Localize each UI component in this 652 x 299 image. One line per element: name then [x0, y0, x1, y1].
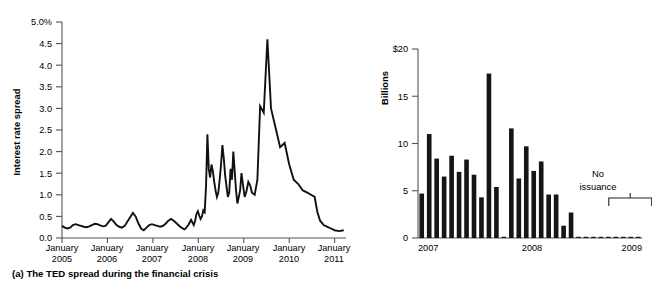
y-tick-label-a: 2.5: [39, 125, 52, 135]
bar: [502, 237, 507, 238]
no-issuance-line1: No: [592, 168, 604, 179]
panel-a-ted-spread: Interest rate spread 0.0: [0, 0, 352, 299]
ted-spread-chart: Interest rate spread 0.0: [0, 0, 352, 262]
bar: [434, 159, 439, 238]
x-tick-label-a-year: 2005: [52, 254, 72, 262]
bar: [554, 195, 559, 238]
y-axis-title-a: Interest rate spread: [11, 88, 22, 175]
bar: [516, 178, 521, 238]
y-tick-label-a: 2.0: [39, 147, 52, 157]
bar: [509, 128, 514, 238]
y-tick-label-a: 1.5: [39, 169, 52, 179]
x-tick-label-a-month: January: [318, 243, 351, 253]
y-ticks-a: [56, 22, 62, 238]
bar: [599, 237, 604, 238]
y-tick-label-b: 15: [398, 92, 408, 102]
x-tick-label-a-year: 2007: [142, 254, 162, 262]
x-tick-label-a-month: January: [46, 243, 79, 253]
bar: [584, 237, 589, 238]
bar: [546, 195, 551, 238]
bar: [576, 237, 581, 238]
x-tick-label-a-year: 2008: [188, 254, 208, 262]
no-issuance-annotation: No issuance: [579, 168, 651, 206]
y-tick-label-a: 3.5: [39, 82, 52, 92]
x-tick-label-b: 2009: [622, 243, 642, 253]
bar: [479, 197, 484, 238]
x-tick-label-a-year: 2011: [324, 254, 344, 262]
y-tick-label-a: 1.0: [39, 190, 52, 200]
bar: [561, 226, 566, 238]
bar: [621, 237, 626, 238]
bar: [472, 175, 477, 238]
bar: [457, 172, 462, 238]
x-tick-label-a-month: January: [227, 243, 260, 253]
bar: [636, 237, 641, 238]
y-tick-label-a: 0.5: [39, 212, 52, 222]
y-tick-labels-b: 0 5 10 15 $20: [393, 44, 408, 243]
bar: [539, 161, 544, 238]
y-tick-label-a: 3.0: [39, 104, 52, 114]
bar: [449, 156, 454, 238]
x-tick-label-a-month: January: [273, 243, 306, 253]
no-issuance-bracket: [609, 193, 652, 206]
y-ticks-b: [412, 49, 418, 238]
bar: [628, 237, 633, 238]
bar: [524, 146, 529, 238]
x-tick-label-a-year: 2006: [97, 254, 117, 262]
bar: [464, 160, 469, 238]
x-tick-label-a-month: January: [136, 243, 169, 253]
bar: [487, 74, 492, 238]
bar: [531, 171, 536, 238]
y-axis-title-b: Billions: [379, 71, 390, 105]
y-tick-label-b: 5: [403, 186, 408, 196]
x-tick-label-a-year: 2010: [279, 254, 299, 262]
x-tick-label-a-month: January: [91, 243, 124, 253]
bar: [427, 134, 432, 238]
x-tick-labels-a: January 2005 January 2006 January 2007 J…: [46, 243, 351, 262]
bar: [614, 237, 619, 238]
y-tick-label-b: 10: [398, 139, 408, 149]
panel-a-caption: (a) The TED spread during the financial …: [12, 268, 218, 279]
y-tick-label-a: 5.0%: [31, 17, 52, 27]
bar: [606, 237, 611, 238]
x-tick-label-b: 2008: [522, 243, 542, 253]
x-tick-label-a-month: January: [182, 243, 215, 253]
y-tick-label-b: 0: [403, 233, 408, 243]
y-tick-label-a: 0.0: [39, 233, 52, 243]
bar-group: [419, 74, 640, 238]
y-tick-label-b: $20: [393, 44, 408, 54]
y-tick-labels-a: 0.0 0.5 1.0 1.5 2.0 2.5 3.0 3.5 4.0 4.5 …: [31, 17, 52, 243]
x-tick-labels-b: 2007 2008 2009: [418, 243, 642, 253]
two-panel-figure: Interest rate spread 0.0: [0, 0, 652, 299]
bar: [569, 212, 574, 238]
ted-spread-line: [62, 39, 344, 231]
x-tick-label-b: 2007: [418, 243, 438, 253]
bar: [494, 187, 499, 238]
y-tick-label-a: 4.0: [39, 61, 52, 71]
bar: [442, 177, 447, 238]
bar: [419, 194, 424, 238]
x-tick-label-a-year: 2009: [233, 254, 253, 262]
bar: [591, 237, 596, 238]
y-tick-label-a: 4.5: [39, 39, 52, 49]
no-issuance-line2: issuance: [579, 181, 616, 192]
panel-b-issuance: Billions 0 5 10 15 $20 2007: [352, 0, 652, 299]
issuance-bar-chart: Billions 0 5 10 15 $20 2007: [352, 0, 652, 262]
